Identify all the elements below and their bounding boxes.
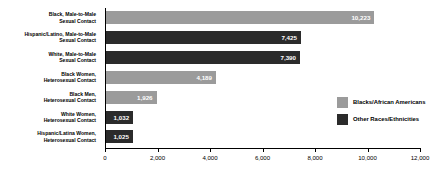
bar-value-label: 7,425 [281,31,296,44]
chart-row: Hispanic/Latina Women,Heterosexual Conta… [0,127,442,146]
axis-tick [263,148,264,152]
legend-label: Other Races/Ethnicities [353,113,419,126]
legend-swatch-icon [337,114,348,125]
category-label-line2: Heterosexual Contact [44,77,96,83]
axis-tick-label: 4,000 [190,154,230,161]
bar-value-label: 10,223 [351,11,370,24]
bar-wrapper: 10,223 [106,11,374,24]
axis-tick-label: 10,000 [348,154,388,161]
category-label-line2: Heterosexual Contact [44,97,96,103]
axis-tick [368,148,369,152]
bar[interactable] [106,31,301,44]
category-label: Black Women,Heterosexual Contact [0,68,100,87]
bar-wrapper: 1,025 [106,130,133,143]
legend-item[interactable]: Other Races/Ethnicities [337,113,441,127]
chart-row: Hispanic/Latino, Male-to-MaleSexual Cont… [0,28,442,47]
legend-item[interactable]: Blacks/African Americans [337,96,441,110]
axis-tick [105,148,106,152]
category-label: White, Male-to-MaleSexual Contact [0,48,100,67]
bar-value-label: 1,032 [114,111,129,124]
axis-tick-label: 0 [85,154,125,161]
category-label: Hispanic/Latino, Male-to-MaleSexual Cont… [0,28,100,47]
category-label: Hispanic/Latina Women,Heterosexual Conta… [0,127,100,146]
category-label-line2: Sexual Contact [59,57,96,63]
bar-wrapper: 4,189 [106,71,216,84]
chart-row: Black, Male-to-MaleSexual Contact10,223 [0,8,442,27]
bar-wrapper: 7,390 [106,51,300,64]
category-label: Black Men,Heterosexual Contact [0,88,100,107]
axis-tick [315,148,316,152]
axis-tick [210,148,211,152]
bar-wrapper: 7,425 [106,31,301,44]
bar-wrapper: 1,926 [106,91,157,104]
bar-chart: Black, Male-to-MaleSexual Contact10,223H… [0,0,442,184]
bar-value-label: 1,926 [137,91,152,104]
category-label-line2: Sexual Contact [59,37,96,43]
bar[interactable] [106,11,374,24]
axis-tick-label: 12,000 [400,154,440,161]
category-label-line2: Heterosexual Contact [44,137,96,143]
bar-value-label: 7,390 [281,51,296,64]
legend-swatch-icon [337,97,348,108]
chart-row: Black Women,Heterosexual Contact4,189 [0,68,442,87]
bar[interactable] [106,51,300,64]
category-label: Black, Male-to-MaleSexual Contact [0,8,100,27]
bar-value-label: 4,189 [196,71,211,84]
axis-tick-label: 2,000 [138,154,178,161]
bar-wrapper: 1,032 [106,111,133,124]
chart-row: White, Male-to-MaleSexual Contact7,390 [0,48,442,67]
category-label-line2: Sexual Contact [59,18,96,24]
category-label-line2: Heterosexual Contact [44,117,96,123]
chart-legend: Blacks/African AmericansOther Races/Ethn… [337,96,441,130]
legend-label: Blacks/African Americans [353,96,425,109]
category-label: White Women,Heterosexual Contact [0,108,100,127]
axis-tick [158,148,159,152]
axis-tick [420,148,421,152]
bar-value-label: 1,025 [113,130,128,143]
axis-tick-label: 8,000 [295,154,335,161]
axis-tick-label: 6,000 [243,154,283,161]
